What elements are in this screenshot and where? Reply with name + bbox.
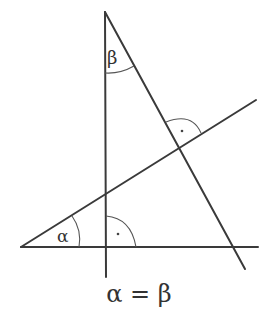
- right-angle-arc-bottom: [106, 216, 136, 247]
- right-angle-dot-bottom: [117, 233, 120, 236]
- right-angle-dot-top: [181, 130, 184, 133]
- right-angle-arc-top: [166, 119, 201, 133]
- caption-equation: α = β: [0, 280, 278, 308]
- geometry-diagram: β α: [0, 0, 278, 319]
- alpha-label: α: [57, 226, 69, 246]
- alpha-arc: [72, 216, 80, 247]
- beta-label: β: [107, 47, 117, 68]
- slanted-line: [105, 12, 245, 269]
- vertical-line: [105, 12, 106, 277]
